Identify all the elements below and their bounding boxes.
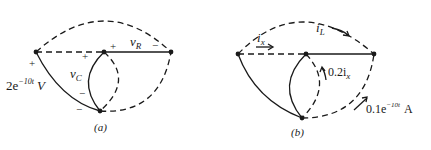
- plus-sign: +: [82, 50, 88, 62]
- graph-a: [36, 21, 171, 111]
- plus-sign: +: [110, 40, 116, 52]
- minus-sign: −: [76, 103, 82, 115]
- dashed-top-arc-a: [36, 21, 171, 52]
- source-voltage-label: 2e−10tV: [6, 77, 47, 93]
- node-a3: [169, 50, 174, 55]
- vr-label: vR: [130, 34, 142, 51]
- dep-source-label: 0.2ix: [328, 65, 350, 81]
- plus-sign: +: [29, 57, 35, 69]
- ix-label: ix: [257, 30, 265, 47]
- capacitor-edge-a: [88, 52, 104, 111]
- solid-left-edge-b: [238, 54, 302, 118]
- node-b4: [300, 116, 305, 121]
- dashed-bottom-edge-a: [100, 52, 171, 111]
- voltage-source-edge-a: [36, 52, 100, 111]
- minus-sign: −: [79, 87, 85, 99]
- dashed-inner-edge-a: [100, 52, 119, 111]
- caption-a: (a): [94, 121, 107, 134]
- node-b3: [372, 52, 377, 57]
- minus-sign: −: [152, 39, 158, 51]
- caption-b: (b): [291, 126, 304, 139]
- solid-inner-edge-b: [289, 54, 306, 118]
- dashed-inner-edge-b: [302, 54, 320, 118]
- node-a4: [98, 109, 103, 114]
- vc-label: vC: [70, 66, 83, 83]
- node-a2: [102, 50, 107, 55]
- node-a1: [34, 50, 39, 55]
- node-b2: [304, 52, 309, 57]
- current-source-label: 0.1e−10tA: [366, 101, 413, 116]
- node-b1: [236, 52, 241, 57]
- il-label: iL: [316, 20, 325, 37]
- circuit-graphs: + + + − − − 2e−10tV vC vR (a) ix iL 0.2i…: [0, 0, 431, 150]
